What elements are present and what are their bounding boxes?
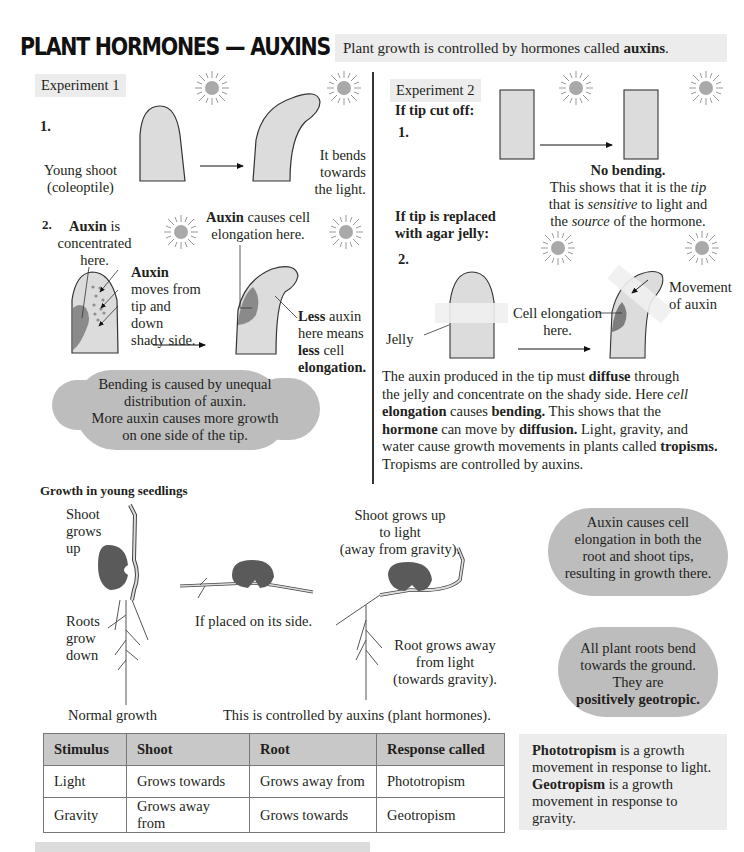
roots-cloud-line3: They are <box>553 674 723 691</box>
auxin-cloud-line4: resulting in growth there. <box>543 565 733 582</box>
table-cell: Grows towards <box>250 798 377 833</box>
geotropic-cloud-text: All plant roots bend towards the ground.… <box>553 640 723 708</box>
roots-line1: Roots <box>66 613 100 630</box>
auxin-cloud-line1: Auxin causes cell <box>543 514 733 531</box>
col-root: Root <box>250 734 377 766</box>
table-cell: Light <box>44 766 127 798</box>
root-away-line1: Root grows away <box>390 637 500 654</box>
col-shoot: Shoot <box>127 734 250 766</box>
auxin-tips-cloud-text: Auxin causes cell elongation in both the… <box>543 514 733 582</box>
table-row: Gravity Grows away from Grows towards Ge… <box>44 798 505 833</box>
col-response: Response called <box>377 734 505 766</box>
shoot-up-line2: grows <box>66 523 101 540</box>
geo-line2: movement in response to <box>532 793 727 810</box>
normal-growth-label: Normal growth <box>68 707 157 724</box>
geo-rest: is a growth <box>605 776 673 792</box>
root-away-label: Root grows away from light (towards grav… <box>390 637 500 688</box>
controlled-by-auxins-label: This is controlled by auxins (plant horm… <box>223 707 491 724</box>
table-cell: Grows away from <box>127 798 250 833</box>
table-row: Light Grows towards Grows away from Phot… <box>44 766 505 798</box>
root-away-line3: (towards gravity). <box>390 671 500 688</box>
table-cell: Grows away from <box>250 766 377 798</box>
table-cell: Gravity <box>44 798 127 833</box>
shoot-light-line2: to light <box>335 524 465 541</box>
auxin-cloud-line2: elongation in both the <box>543 531 733 548</box>
geo-line3: gravity. <box>532 810 727 827</box>
auxin-cloud-line3: root and shoot tips, <box>543 548 733 565</box>
roots-cloud-line1: All plant roots bend <box>553 640 723 657</box>
roots-cloud-line2: towards the ground. <box>553 657 723 674</box>
table-cell: Phototropism <box>377 766 505 798</box>
shoot-light-line1: Shoot grows up <box>335 507 465 524</box>
photo-rest: is a growth <box>616 742 684 758</box>
table-cell: Grows towards <box>127 766 250 798</box>
shoot-up-line1: Shoot <box>66 506 101 523</box>
placed-on-side-label: If placed on its side. <box>195 613 312 630</box>
roots-grow-down-label: Roots grow down <box>66 613 100 664</box>
geotropism-bold: Geotropism <box>532 776 605 792</box>
phototropism-bold: Phototropism <box>532 742 616 758</box>
root-away-line2: from light <box>390 654 500 671</box>
bottom-strip <box>35 842 370 852</box>
shoot-light-line3: (away from gravity). <box>335 541 465 558</box>
definitions-box: Phototropism is a growth movement in res… <box>519 734 727 830</box>
shoot-up-line3: up <box>66 540 101 557</box>
col-stimulus: Stimulus <box>44 734 127 766</box>
shoot-grows-up-label: Shoot grows up <box>66 506 101 557</box>
roots-line2: grow <box>66 630 100 647</box>
roots-cloud-line4: positively geotropic. <box>553 691 723 708</box>
photo-line2: movement in response to light. <box>532 759 727 776</box>
shoot-to-light-label: Shoot grows up to light (away from gravi… <box>335 507 465 558</box>
tropism-table: Stimulus Shoot Root Response called Ligh… <box>43 733 505 833</box>
table-cell: Geotropism <box>377 798 505 833</box>
table-header-row: Stimulus Shoot Root Response called <box>44 734 505 766</box>
roots-line3: down <box>66 647 100 664</box>
